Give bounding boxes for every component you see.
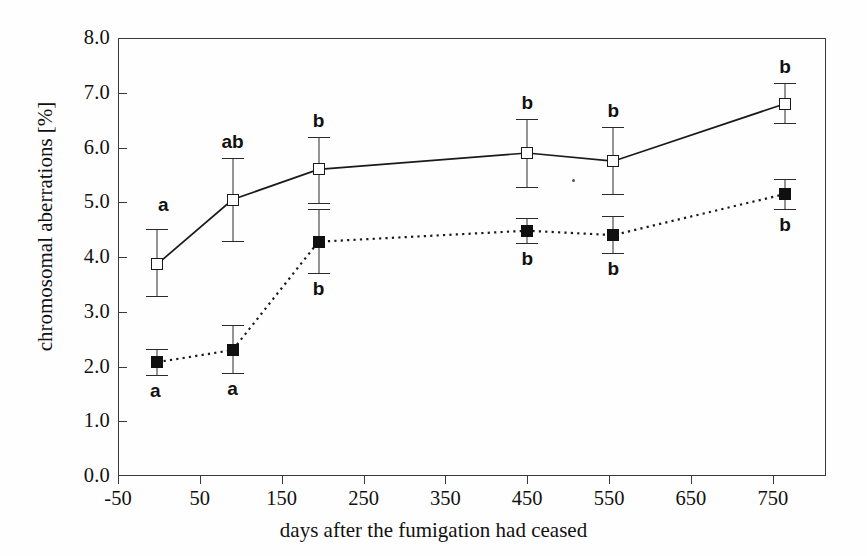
plot-area-frame: [118, 38, 826, 476]
y-axis-tick-label: 8.0: [52, 27, 110, 48]
x-axis-tick: [200, 476, 201, 484]
x-axis-tick: [445, 476, 446, 484]
x-axis-tick-label: 350: [405, 487, 485, 509]
x-axis-tick: [364, 476, 365, 484]
x-axis-tick-label: 750: [733, 487, 813, 509]
y-axis-title: chromosomal aberrations [%]: [33, 77, 58, 377]
x-axis-tick-label: 150: [242, 487, 322, 509]
y-axis-tick: [118, 148, 127, 149]
chart-figure: chromosomal aberrations [%] days after t…: [0, 0, 867, 556]
x-axis-tick-label: 550: [569, 487, 649, 509]
x-axis-tick: [773, 476, 774, 484]
y-axis-tick: [118, 257, 127, 258]
y-axis-tick-label: 3.0: [52, 301, 110, 322]
y-axis-tick: [118, 202, 127, 203]
scan-artifact-dot: [572, 179, 575, 182]
y-axis-tick-label: 5.0: [52, 191, 110, 212]
y-axis-tick: [118, 312, 127, 313]
x-axis-tick-label: 250: [324, 487, 404, 509]
x-axis-tick: [527, 476, 528, 484]
y-axis-tick-label: 1.0: [52, 410, 110, 431]
x-axis-tick: [691, 476, 692, 484]
x-axis-tick: [118, 476, 119, 484]
x-axis-tick: [282, 476, 283, 484]
y-axis-tick-label: 0.0: [52, 465, 110, 486]
x-axis-tick-label: 50: [160, 487, 240, 509]
x-axis-tick: [609, 476, 610, 484]
y-axis-tick-label: 7.0: [52, 82, 110, 103]
y-axis-tick-label: 4.0: [52, 246, 110, 267]
x-axis-tick-label: 450: [487, 487, 567, 509]
x-axis-tick-label: -50: [78, 487, 158, 509]
y-axis-tick-label: 2.0: [52, 356, 110, 377]
y-axis-tick: [118, 367, 127, 368]
y-axis-tick: [118, 93, 127, 94]
y-axis-tick: [118, 421, 127, 422]
x-axis-title: days after the fumigation had ceased: [0, 518, 867, 543]
y-axis-tick-label: 6.0: [52, 137, 110, 158]
x-axis-tick-label: 650: [651, 487, 731, 509]
